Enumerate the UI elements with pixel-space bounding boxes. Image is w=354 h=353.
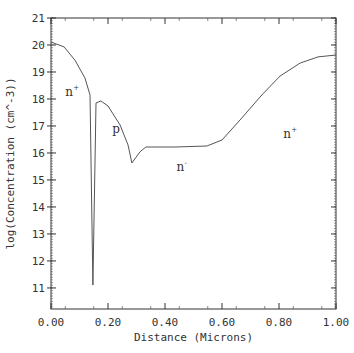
- y-tick-label: 20: [32, 39, 45, 52]
- y-tick-label: 16: [32, 147, 45, 160]
- y-tick-label: 18: [32, 93, 45, 106]
- region-label-superscript: +: [291, 126, 297, 134]
- y-tick-label: 17: [32, 120, 45, 133]
- region-label: n: [176, 160, 184, 174]
- y-tick-label: 11: [32, 282, 45, 295]
- region-label: n: [65, 85, 73, 99]
- series-group: [51, 42, 336, 285]
- x-tick-label: 0.40: [152, 316, 179, 329]
- y-tick-label: 13: [32, 228, 45, 241]
- concentration-chart: 0.000.200.400.600.801.00 111213141516171…: [0, 0, 354, 353]
- y-tick-label: 19: [32, 66, 45, 79]
- minor-ticks: [51, 18, 336, 309]
- x-tick-label: 0.60: [209, 316, 236, 329]
- region-label: n: [283, 127, 291, 141]
- region-label-superscript: +: [73, 84, 79, 92]
- x-tick-label: 1.00: [323, 316, 350, 329]
- y-tick-label: 21: [32, 12, 45, 25]
- y-tick-label: 14: [32, 201, 46, 214]
- plot-frame: [51, 18, 336, 309]
- x-axis-ticks: 0.000.200.400.600.801.00: [38, 18, 350, 329]
- x-tick-label: 0.00: [38, 316, 65, 329]
- x-axis-title: Distance (Microns): [134, 331, 253, 344]
- y-tick-label: 12: [32, 255, 45, 268]
- series-line: [51, 42, 336, 285]
- y-axis-ticks: 1112131415161718192021: [32, 12, 336, 295]
- region-label: p: [112, 122, 120, 136]
- region-label-superscript: -: [184, 159, 187, 167]
- annotations: n+pn-n+: [65, 84, 297, 173]
- x-tick-label: 0.20: [95, 316, 122, 329]
- y-tick-label: 15: [32, 174, 45, 187]
- y-axis-title: log(Concentration (cm^-3)): [4, 77, 17, 249]
- x-tick-label: 0.80: [266, 316, 293, 329]
